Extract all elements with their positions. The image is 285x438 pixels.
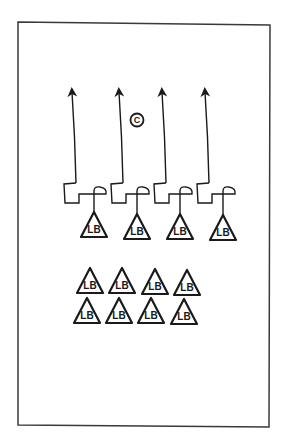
route-jog [197,183,223,203]
route-4 [197,92,235,215]
player-label: LB [148,281,161,292]
linebacker-marker: LB [106,298,132,323]
motion-loop [180,187,192,214]
linebacker-marker: LB [109,268,135,293]
player-label: LB [144,310,157,321]
route-jog [154,183,180,203]
linebacker-marker: LB [174,270,200,295]
route-3 [154,92,192,214]
linebacker-marker: LB [210,215,236,240]
player-label: LB [173,226,186,237]
route-arrow [119,92,123,183]
player-label: LB [80,310,93,321]
route-jog [64,183,94,203]
front-linebackers: LBLBLBLB [81,212,236,240]
back-linebackers: LBLBLBLBLBLBLBLB [74,268,200,324]
linebacker-marker: LB [138,298,164,323]
linebacker-marker: LB [142,269,168,294]
coach-label: C [134,115,141,125]
route-arrow [205,92,209,183]
route-2 [111,92,149,214]
linebacker-marker: LB [81,212,107,237]
play-diagram: C LBLBLBLB LBLBLBLBLBLBLBLB [0,0,285,438]
player-label: LB [83,280,96,291]
routes [64,92,235,215]
player-label: LB [177,311,190,322]
motion-loop [94,187,106,212]
linebacker-marker: LB [124,214,150,239]
player-label: LB [112,310,125,321]
route-arrow [162,92,166,183]
motion-loop [137,187,149,214]
motion-loop [223,187,235,215]
player-label: LB [87,224,100,235]
player-label: LB [130,226,143,237]
linebacker-marker: LB [171,299,197,324]
route-1 [64,92,106,212]
player-label: LB [115,280,128,291]
linebacker-marker: LB [77,268,103,293]
coach-marker: C [131,114,144,127]
player-label: LB [180,282,193,293]
linebacker-marker: LB [167,214,193,239]
route-jog [111,183,137,203]
player-label: LB [216,227,229,238]
route-arrow [72,92,76,183]
linebacker-marker: LB [74,298,100,323]
field-frame [18,22,270,427]
